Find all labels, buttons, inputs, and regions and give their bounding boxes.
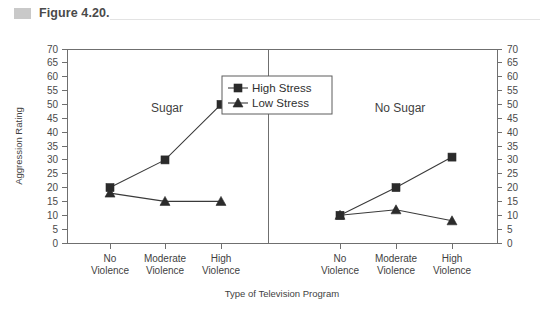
y-tick-right-40: 40: [507, 127, 519, 138]
panel-label-sugar: Sugar: [151, 101, 183, 115]
y-tick-left-25: 25: [47, 168, 59, 179]
chart-legend: High Stress Low Stress: [222, 76, 332, 114]
y-tick-right-70: 70: [507, 44, 519, 55]
y-tick-right-35: 35: [507, 141, 519, 152]
marker-square: [392, 184, 400, 192]
x-cat-right-0-line1: No: [334, 253, 347, 264]
marker-square: [161, 156, 169, 164]
y-tick-right-5: 5: [507, 224, 513, 235]
x-cat-right-2-line2: Violence: [433, 265, 472, 276]
caption-divider: [110, 19, 540, 20]
x-cat-right-1-line2: Violence: [377, 265, 416, 276]
y-axis-left: 70 65 60 55 50 45 40 35 30 25 20 15 10 5…: [47, 44, 67, 249]
x-cat-left-1-line1: Moderate: [144, 253, 187, 264]
figure-caption-label: Figure 4.20.: [39, 6, 110, 20]
figure-container: Figure 4.20.: [0, 0, 554, 314]
x-cat-right-1-line1: Moderate: [375, 253, 418, 264]
x-cat-left-2-line2: Violence: [202, 265, 241, 276]
gray-square-icon: [14, 8, 31, 19]
y-axis-right: 70 65 60 55 50 45 40 35 30 25 20 15 10 5…: [497, 44, 519, 249]
y-axis-title: Aggression Rating: [13, 107, 24, 185]
figure-caption-bar: Figure 4.20.: [0, 0, 554, 26]
x-cat-right-0-line2: Violence: [321, 265, 360, 276]
x-cat-left-1-line2: Violence: [146, 265, 185, 276]
x-axis-left-panel: No Violence Moderate Violence High Viole…: [91, 243, 241, 276]
series-left-low-stress: [105, 188, 226, 205]
marker-square: [448, 153, 456, 161]
panel-label-no-sugar: No Sugar: [375, 101, 426, 115]
legend-label-low-stress: Low Stress: [252, 97, 309, 109]
x-cat-left-2-line1: High: [211, 253, 232, 264]
y-tick-left-60: 60: [47, 71, 59, 82]
y-tick-right-0: 0: [507, 238, 513, 249]
y-tick-left-15: 15: [47, 196, 59, 207]
x-cat-left-0-line1: No: [104, 253, 117, 264]
y-tick-right-25: 25: [507, 168, 519, 179]
y-tick-left-45: 45: [47, 113, 59, 124]
x-cat-right-2-line1: High: [442, 253, 463, 264]
y-tick-left-10: 10: [47, 210, 59, 221]
series-right-low-stress: [335, 205, 457, 225]
x-axis-right-panel: No Violence Moderate Violence High Viole…: [321, 243, 472, 276]
legend-label-high-stress: High Stress: [252, 82, 312, 94]
y-tick-left-65: 65: [47, 57, 59, 68]
y-tick-left-35: 35: [47, 141, 59, 152]
chart-plot-area: 70 65 60 55 50 45 40 35 30 25 20 15 10 5…: [0, 26, 554, 314]
marker-triangle: [391, 205, 401, 214]
y-tick-left-30: 30: [47, 154, 59, 165]
y-tick-right-50: 50: [507, 99, 519, 110]
legend-marker-square: [234, 84, 242, 92]
y-tick-left-40: 40: [47, 127, 59, 138]
y-tick-right-10: 10: [507, 210, 519, 221]
y-tick-right-60: 60: [507, 71, 519, 82]
y-tick-right-65: 65: [507, 57, 519, 68]
y-tick-right-30: 30: [507, 154, 519, 165]
y-tick-right-20: 20: [507, 182, 519, 193]
y-tick-right-45: 45: [507, 113, 519, 124]
x-cat-left-0-line2: Violence: [91, 265, 130, 276]
y-tick-left-50: 50: [47, 99, 59, 110]
y-tick-right-15: 15: [507, 196, 519, 207]
y-tick-left-20: 20: [47, 182, 59, 193]
y-tick-left-5: 5: [52, 224, 58, 235]
y-tick-right-55: 55: [507, 85, 519, 96]
x-axis-title: Type of Television Program: [225, 288, 339, 299]
y-tick-left-0: 0: [52, 238, 58, 249]
y-tick-left-70: 70: [47, 44, 59, 55]
y-tick-left-55: 55: [47, 85, 59, 96]
